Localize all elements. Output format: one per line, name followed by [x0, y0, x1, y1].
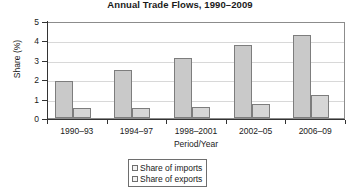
chart-legend: Share of imports Share of exports [128, 159, 207, 187]
y-axis-line [47, 21, 48, 120]
y-axis-tick [42, 100, 47, 101]
y-axis-title: Share (%) [12, 29, 22, 89]
plot-area [47, 22, 345, 119]
x-axis-line [47, 119, 345, 120]
x-axis-tick [166, 120, 167, 124]
y-axis-tick [42, 61, 47, 62]
y-axis-tick-label: 5 [26, 18, 39, 26]
y-axis-tick-label: 4 [26, 37, 39, 45]
legend-label-exports: Share of exports [140, 174, 202, 184]
legend-swatch-imports-icon [132, 165, 138, 171]
x-axis-tick [345, 120, 346, 124]
bar-imports [234, 45, 252, 118]
legend-swatch-exports-icon [132, 176, 138, 182]
x-axis-tick [285, 120, 286, 124]
legend-item-imports[interactable]: Share of imports [132, 162, 202, 173]
y-axis-tick-label: 2 [26, 76, 39, 84]
bar-imports [114, 70, 132, 119]
x-axis-title: Period/Year [47, 139, 345, 149]
y-axis-tick [42, 22, 47, 23]
x-axis-tick [47, 120, 48, 124]
chart-title: Annual Trade Flows, 1990–2009 [0, 0, 360, 10]
y-axis-tick [42, 80, 47, 81]
x-axis-tick-label: 2006–09 [280, 126, 350, 136]
bar-exports [252, 104, 270, 118]
bar-imports [174, 58, 192, 118]
bar-exports [311, 95, 329, 118]
bar-exports [192, 107, 210, 118]
x-axis-tick [107, 120, 108, 124]
y-axis-tick-label: 1 [26, 96, 39, 104]
bar-exports [73, 108, 91, 118]
legend-label-imports: Share of imports [140, 163, 202, 173]
bar-imports [293, 35, 311, 118]
x-axis-tick [226, 120, 227, 124]
y-axis-tick [42, 41, 47, 42]
bar-imports [55, 81, 73, 118]
y-axis-tick-label: 0 [26, 115, 39, 123]
legend-item-exports[interactable]: Share of exports [132, 173, 202, 184]
y-axis-tick-label: 3 [26, 57, 39, 65]
bar-exports [132, 108, 150, 118]
